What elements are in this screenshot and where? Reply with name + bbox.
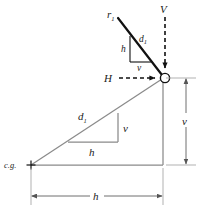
- vertical-force-label: V: [160, 3, 168, 15]
- lower-hypotenuse-label: d1: [78, 110, 87, 124]
- main-triangle-hypotenuse: [31, 79, 162, 165]
- lower-slope-triangle: [68, 113, 118, 142]
- member-label: r1: [107, 8, 115, 22]
- vertical-dimension-label: v: [182, 115, 187, 127]
- upper-horizontal-leg-label: v: [137, 63, 142, 73]
- lower-horizontal-leg-label: h: [89, 146, 95, 158]
- force-resolution-diagram: r1 V H d1 h v d1 v h c.g. v h: [0, 0, 204, 216]
- centroid-label: c.g.: [4, 160, 16, 170]
- upper-vertical-leg-label: h: [121, 44, 126, 54]
- horizontal-dimension-label: h: [93, 190, 99, 202]
- upper-hypotenuse-label: d1: [139, 34, 147, 45]
- lower-vertical-leg-label: v: [123, 122, 128, 134]
- horizontal-force-label: H: [103, 72, 113, 84]
- figure-container: r1 V H d1 h v d1 v h c.g. v h: [0, 0, 204, 216]
- main-triangle: [31, 79, 163, 165]
